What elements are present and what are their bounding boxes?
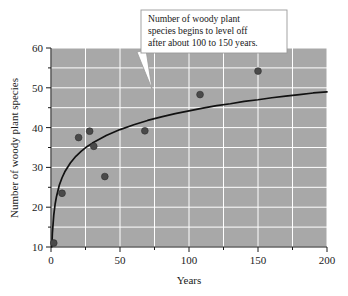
x-tick-label: 100 [181,254,198,266]
y-tick-label: 30 [32,161,44,173]
data-point [59,190,66,197]
x-tick-label: 50 [115,254,127,266]
data-point [141,127,148,134]
y-axis-title: Number of woody plant species [8,78,20,218]
x-tick-label: 150 [250,254,267,266]
y-tick-label: 40 [32,122,44,134]
y-tick-label: 50 [32,82,44,94]
callout-line-2: species begins to level off [148,25,248,36]
data-point [75,134,82,141]
x-axis-title: Years [177,274,202,286]
y-tick-label: 60 [32,42,44,54]
data-point [86,128,93,135]
callout-line-3: after about 100 to 150 years. [148,37,258,48]
y-tick-label: 10 [32,241,44,253]
data-point [50,240,57,247]
x-tick-label: 200 [319,254,336,266]
data-point [255,68,262,75]
data-point [90,143,97,150]
data-point [101,173,108,180]
x-tick-label: 0 [48,254,54,266]
callout-line-1: Number of woody plant [148,13,240,24]
data-point [197,91,204,98]
scatter-plot: 050100150200 102030405060 Years Number o… [0,0,348,296]
y-tick-label: 20 [32,201,44,213]
chart-figure: 050100150200 102030405060 Years Number o… [0,0,348,296]
